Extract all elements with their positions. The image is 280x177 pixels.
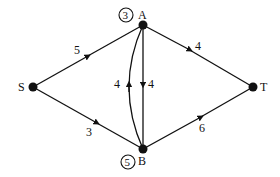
node-label-b: B [138, 154, 146, 168]
weight-b-a: 4 [114, 77, 120, 91]
circled-value-a: 3 [119, 8, 133, 22]
svg-text:3: 3 [123, 9, 129, 21]
node-label-a: A [138, 8, 147, 22]
edge-a-t [143, 25, 253, 87]
node-t [249, 83, 258, 92]
svg-text:5: 5 [125, 156, 131, 168]
edge-b-t [143, 87, 253, 149]
node-s [29, 83, 38, 92]
weight-a-b: 4 [148, 77, 154, 91]
edge-s-a [33, 25, 143, 87]
network-diagram: 5 3 4 6 4 4 S A T B 3 5 [0, 0, 280, 177]
weight-b-t: 6 [199, 121, 205, 135]
edge-b-a-curved [129, 25, 143, 149]
node-b [139, 145, 148, 154]
weight-a-t: 4 [195, 39, 201, 53]
weight-s-b: 3 [86, 125, 92, 139]
node-label-s: S [18, 80, 25, 94]
edge-s-b [33, 87, 143, 149]
weight-s-a: 5 [74, 43, 80, 57]
circled-value-b: 5 [121, 155, 135, 169]
node-label-t: T [260, 80, 268, 94]
